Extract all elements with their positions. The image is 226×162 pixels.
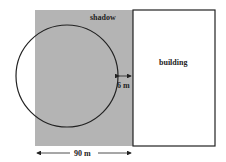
building [133, 10, 215, 146]
building-label: building [159, 58, 187, 67]
shadow-label: shadow [90, 13, 116, 22]
width-label: 90 m [74, 149, 91, 158]
diagram: shadow building 6 m 90 m [0, 0, 226, 162]
gap-label: 6 m [117, 81, 130, 90]
